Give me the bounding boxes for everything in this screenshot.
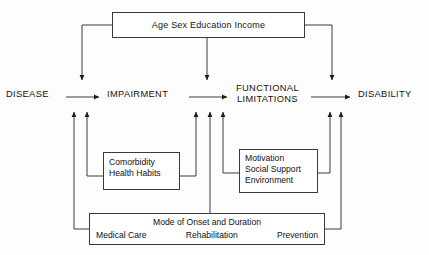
stage-label-disease: DISEASE: [6, 89, 49, 100]
mode-of-onset-item-rehabilitation: Rehabilitation: [186, 230, 238, 241]
mode-of-onset-heading: Mode of Onset and Duration: [90, 217, 324, 228]
arrow-demographics-to-disability: [305, 25, 332, 80]
stage-label-disability: DISABILITY: [358, 89, 412, 100]
arrow-bottom-to-disability: [325, 112, 341, 229]
motivation-line-2: Social Support: [245, 164, 317, 175]
mode-of-onset-item-medical-care: Medical Care: [96, 230, 147, 241]
comorbidity-line-2: Health Habits: [109, 168, 179, 179]
box-comorbidity: Comorbidity Health Habits: [103, 152, 180, 190]
stage-label-impairment: IMPAIRMENT: [107, 89, 168, 100]
arrow-comorbidity-to-impairment: [87, 112, 103, 176]
box-mode-of-onset: Mode of Onset and Duration Medical Care …: [89, 213, 325, 245]
arrow-comorbidity-to-functional: [180, 112, 196, 176]
mode-of-onset-items: Medical Care Rehabilitation Prevention: [90, 230, 324, 241]
stage-label-functional-limitations: FUNCTIONAL LIMITATIONS: [236, 83, 299, 104]
disablement-process-diagram: DISEASE IMPAIRMENT FUNCTIONAL LIMITATION…: [0, 0, 429, 255]
arrow-motivation-to-functional: [223, 112, 239, 173]
box-demographics: Age Sex Education Income: [112, 12, 305, 38]
motivation-line-1: Motivation: [245, 153, 317, 164]
box-motivation: Motivation Social Support Environment: [239, 149, 318, 193]
demographics-items: Age Sex Education Income: [152, 20, 265, 31]
arrow-demographics-to-impairment: [82, 25, 112, 80]
arrow-motivation-to-disability: [318, 112, 330, 173]
comorbidity-line-1: Comorbidity: [109, 157, 179, 168]
motivation-line-3: Environment: [245, 175, 317, 186]
mode-of-onset-item-prevention: Prevention: [277, 230, 318, 241]
